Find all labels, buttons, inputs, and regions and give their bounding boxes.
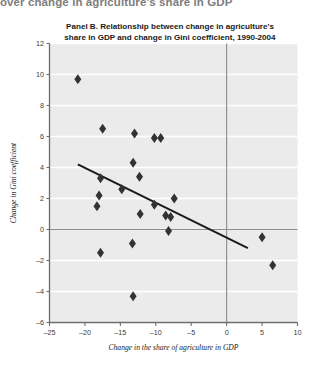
y-axis-title: Change in Gini coefficient <box>9 142 18 223</box>
y-tick-label: 8 <box>40 101 44 110</box>
scatter-plot: –6–4–2024681012 –25–20–15–10–50510 Chang… <box>0 0 314 371</box>
x-axis-title: Change in the share of agriculture in GD… <box>109 343 239 352</box>
x-tick-label: –25 <box>44 328 56 337</box>
x-tick-label: 5 <box>260 328 264 337</box>
x-tick-label: –10 <box>150 328 162 337</box>
chart-title-line-1: Panel B. Relationship between change in … <box>66 22 274 31</box>
chart-title: Panel B. Relationship between change in … <box>34 22 306 43</box>
x-tick-label: 0 <box>225 328 229 337</box>
plot-background <box>50 44 298 323</box>
x-tick-label: 10 <box>294 328 302 337</box>
x-axis-ticks: –25–20–15–10–50510 <box>44 323 302 337</box>
y-tick-label: –4 <box>36 287 44 296</box>
x-tick-label: –5 <box>187 328 195 337</box>
y-tick-label: –6 <box>36 318 44 327</box>
y-tick-label: 2 <box>40 194 44 203</box>
y-tick-label: 6 <box>40 132 44 141</box>
cut-off-caption-text: over change in agriculture's share in GD… <box>0 0 314 8</box>
y-tick-label: 4 <box>40 163 44 172</box>
x-tick-label: –15 <box>114 328 126 337</box>
chart-figure: over change in agriculture's share in GD… <box>0 0 314 371</box>
x-tick-label: –20 <box>79 328 91 337</box>
y-axis-ticks: –6–4–2024681012 <box>36 39 50 327</box>
y-tick-label: 0 <box>40 225 44 234</box>
chart-title-line-2: share in GDP and change in Gini coeffici… <box>34 33 306 44</box>
y-tick-label: 10 <box>36 70 44 79</box>
plot-area-rect <box>50 44 298 323</box>
y-tick-label: –2 <box>36 256 44 265</box>
